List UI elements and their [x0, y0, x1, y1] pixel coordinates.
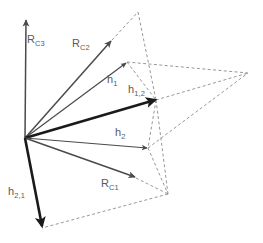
vector-h12	[25, 100, 155, 138]
label-h21-sub: 2,1	[14, 191, 25, 200]
vector-arrows	[25, 20, 155, 226]
vector-h21	[25, 138, 42, 226]
vector-h2	[25, 138, 147, 148]
dashed-edge	[112, 12, 138, 40]
label-h12: h1,2	[128, 84, 145, 95]
label-rc3-sub: C3	[35, 39, 45, 48]
dashed-edge	[148, 100, 156, 148]
label-rc2-base: R	[72, 37, 80, 49]
vector-diagram: RC3 RC2 h1 h1,2 h2 RC1 h2,1	[0, 0, 263, 243]
vector-rc2	[25, 41, 111, 138]
dashed-edge	[148, 73, 248, 148]
label-rc1: RC1	[101, 178, 119, 189]
label-rc3: RC3	[27, 34, 45, 45]
dashed-edge	[136, 178, 168, 194]
label-rc3-base: R	[27, 33, 35, 45]
vector-rc1	[25, 138, 135, 177]
label-rc1-base: R	[101, 177, 109, 189]
label-rc1-sub: C1	[109, 183, 119, 192]
label-h1-sub: 1	[113, 79, 117, 88]
label-h12-sub: 1,2	[134, 89, 145, 98]
dashed-edge	[127, 62, 248, 73]
label-h2-sub: 2	[121, 132, 125, 141]
dashed-edge	[42, 194, 168, 228]
label-rc2-sub: C2	[80, 43, 90, 52]
label-rc2: RC2	[72, 38, 90, 49]
label-h2: h2	[115, 127, 126, 138]
dashed-edge	[156, 73, 248, 100]
label-h1: h1	[107, 74, 118, 85]
vector-rc3	[25, 20, 26, 138]
label-h21: h2,1	[8, 186, 25, 197]
